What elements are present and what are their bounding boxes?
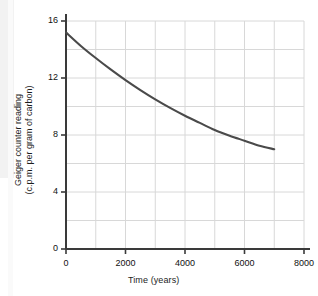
y-axis-title-line-1: Geiger counter reading (13, 94, 24, 186)
y-axis-title: Geiger counter reading (c.p.m. per gram … (11, 70, 37, 210)
x-tick-label: 0 (46, 258, 86, 268)
axis-ticks (61, 21, 304, 254)
x-tick-label: 8000 (284, 258, 318, 268)
x-tick-label: 4000 (165, 258, 205, 268)
x-tick-label: 2000 (106, 258, 146, 268)
chart-screenshot: 0481216 02000400060008000 Time (years) G… (0, 0, 318, 296)
y-axis-title-line-2: (c.p.m. per gram of carbon) (24, 85, 35, 194)
x-axis-title: Time (years) (128, 275, 179, 285)
x-tick-label: 6000 (225, 258, 265, 268)
y-tick-label: 0 (32, 243, 58, 253)
y-tick-label: 16 (32, 15, 58, 25)
